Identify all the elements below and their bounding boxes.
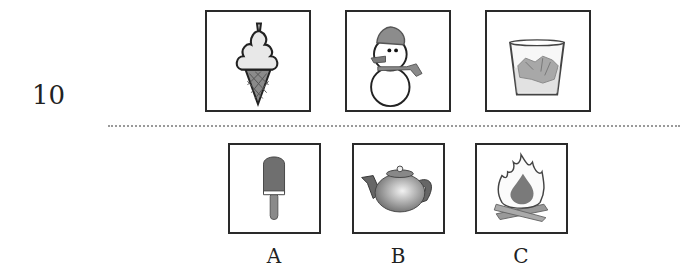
question-number: 10 [32,80,65,110]
option-c-label: C [501,244,541,268]
option-b-label: B [378,244,418,268]
snowman-icon [347,12,449,110]
option-a-label: A [254,244,294,268]
campfire-icon [477,145,566,232]
teapot-icon [354,145,443,232]
prompt-image-glass-of-ice [485,10,591,112]
option-a-image[interactable] [228,143,321,234]
glass-of-ice-icon [487,12,589,110]
section-divider [108,125,680,127]
popsicle-icon [230,145,319,232]
option-b-image[interactable] [352,143,445,234]
prompt-image-ice-cream [205,10,311,112]
option-c-image[interactable] [475,143,568,234]
prompt-image-snowman [345,10,451,112]
ice-cream-cone-icon [207,12,309,110]
